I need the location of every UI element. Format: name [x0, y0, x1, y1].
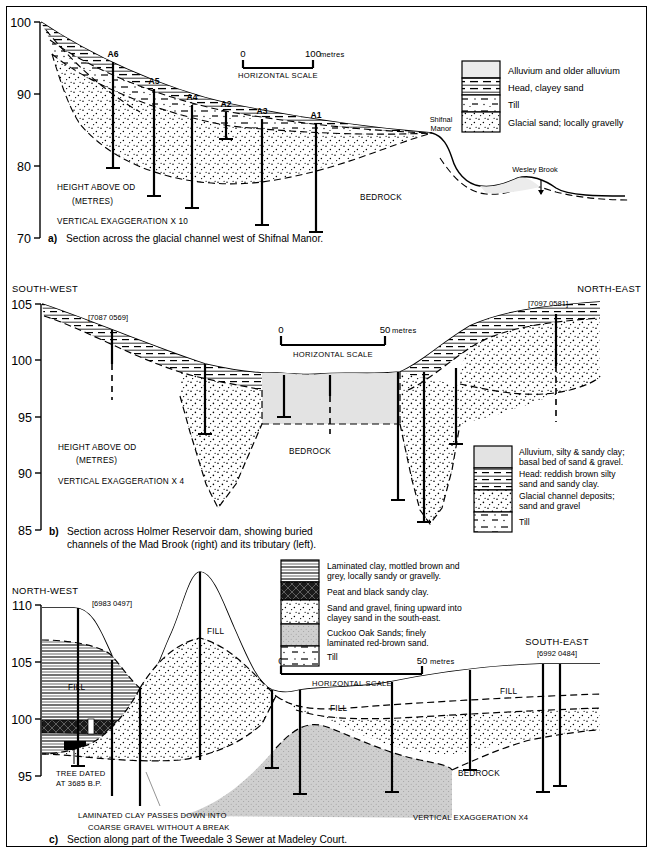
panel-a-shifnal-manor-label-1: Shifnal [430, 115, 453, 124]
panel-a-scale-right: 100 [305, 48, 321, 59]
panel-c-legend-label-laminated-clay-1: Laminated clay, mottled brown and [327, 561, 460, 571]
panel-b-direction-left: SOUTH-WEST [12, 283, 78, 294]
panel-b-scale-bar [281, 336, 385, 345]
panel-b-ytick-85: 85 [18, 524, 32, 538]
panel-a-scale-caption: HORIZONTAL SCALE [238, 71, 318, 80]
panel-c-grid-ref-right: [6992 0484] [537, 649, 577, 658]
panel-c-scale-bar [281, 666, 422, 674]
panel-b: 105 100 95 90 85 [0, 272, 653, 554]
panel-a-legend-label-till: Till [508, 100, 519, 110]
panel-a-shifnal-manor-label-2: Manor [431, 124, 452, 133]
panel-c-peat-gap-1 [88, 719, 94, 734]
panel-a-borehole-label-A5: A5 [149, 76, 160, 86]
panel-b-legend-label-till: Till [519, 517, 530, 527]
panel-c-legend-label-till: Till [327, 652, 338, 662]
panel-b-legend-swatch-head [474, 468, 512, 490]
panel-a-y-axis [34, 22, 40, 238]
panel-c-laminated-note-leader [146, 772, 160, 806]
panel-c-legend-label-cuckoo-oak-2: laminated red-brown sand. [327, 638, 429, 648]
panel-b-scale-caption: HORIZONTAL SCALE [293, 350, 373, 359]
figure-root: 100 90 80 70 [0, 0, 653, 853]
panel-b-legend-label-glacial-channel-2: sand and gravel [519, 501, 580, 511]
panel-c-scale-caption: HORIZONTAL SCALE [312, 679, 392, 688]
panel-a-scale-unit: metres [320, 50, 344, 59]
panel-c-legend-swatch-sand-gravel [281, 600, 319, 624]
panel-b-ytick-105: 105 [11, 298, 32, 312]
panel-c-legend: Laminated clay, mottled brown and grey, … [281, 560, 462, 666]
panel-a-borehole-label-A6: A6 [108, 49, 119, 59]
panel-b-legend-swatch-till [474, 512, 512, 532]
panel-b-grid-ref-right: [7097 0581] [528, 299, 568, 308]
panel-b-ytick-100: 100 [11, 354, 32, 368]
panel-c-legend-label-sand-gravel-2: clayey sand in the south-east. [327, 613, 441, 623]
panel-a-ytick-100: 100 [10, 16, 31, 30]
panel-a-ytick-90: 90 [17, 88, 31, 102]
panel-c-ytick-105: 105 [11, 656, 32, 670]
panel-a-scale-left: 0 [240, 48, 245, 59]
panel-c-legend-label-laminated-clay-2: grey, locally sandy or gravelly. [327, 571, 441, 581]
panel-c-y-axis [35, 605, 41, 776]
panel-c-ytick-110: 110 [12, 599, 32, 613]
panel-b-scale-unit: metres [392, 326, 416, 335]
panel-a-caption-letter: a) [48, 233, 57, 244]
panel-c-legend-label-cuckoo-oak-1: Cuckoo Oak Sands; finely [327, 628, 427, 638]
panel-b-scale-left: 0 [278, 324, 283, 335]
panel-c-legend-label-sand-gravel-1: Sand and gravel, fining upward into [327, 603, 462, 613]
panel-a-brook-alluvium [480, 178, 540, 194]
panel-a-vertical-exaggeration: VERTICAL EXAGGERATION X 10 [57, 217, 188, 226]
panel-b-legend-label-alluvium-1: Alluvium, silty & sandy clay; [519, 447, 625, 457]
panel-c-legend-swatch-peat [281, 582, 319, 600]
panel-c-tree-dated-1: TREE DATED [56, 769, 106, 778]
panel-a: 100 90 80 70 [0, 0, 653, 262]
panel-a-legend-label-glacial-sand: Glacial sand; locally gravelly [508, 118, 624, 128]
panel-a-borehole-label-A2: A2 [221, 99, 232, 109]
panel-b-ytick-95: 95 [18, 411, 32, 425]
panel-c-vertical-exaggeration: VERTICAL EXAGGERATION X4 [413, 813, 528, 822]
panel-a-legend-swatch-till [462, 95, 500, 112]
panel-c-ytick-95: 95 [18, 770, 32, 784]
panel-b-legend-label-head-1: Head: reddish brown silty [519, 469, 616, 479]
panel-c-legend-label-peat: Peat and black sandy clay. [327, 587, 429, 597]
panel-b-grid-ref-left: [7087 0569] [88, 313, 128, 322]
panel-a-borehole-label-A1: A1 [311, 110, 322, 120]
panel-c-legend-swatch-till [281, 646, 319, 666]
panel-a-legend-swatch-glacial-sand [462, 112, 500, 132]
panel-a-scale-bar [243, 60, 313, 68]
panel-b-vertical-exaggeration: VERTICAL EXAGGERATION X 4 [58, 477, 185, 486]
panel-a-caption-text: Section across the glacial channel west … [66, 233, 323, 244]
panel-a-wesley-brook-label: Wesley Brook [512, 165, 558, 174]
panel-c-fill-label-1: FILL [68, 683, 85, 692]
panel-b-unit-glacial-channel-right [400, 372, 460, 524]
panel-a-legend-label-head: Head, clayey sand [508, 83, 584, 93]
panel-c-tree-dated-2: AT 3685 B.P. [56, 779, 102, 788]
panel-b-axis-label-2: (METRES) [76, 456, 117, 465]
panel-b-ytick-90: 90 [18, 467, 32, 481]
panel-a-brook-arrowhead [538, 190, 544, 195]
panel-a-axis-label-2: (METRES) [72, 197, 113, 206]
panel-b-y-axis [35, 304, 41, 530]
panel-b-direction-right: NORTH-EAST [577, 283, 641, 294]
panel-b-caption-letter: b) [49, 526, 59, 537]
panel-a-borehole-label-A4: A4 [187, 92, 198, 102]
panel-b-legend-label-head-2: sand and sandy clay. [519, 479, 599, 489]
panel-c-bedrock-label: BEDROCK [458, 769, 500, 778]
panel-c: 110 105 100 95 [0, 548, 653, 848]
panel-c-scale-unit: metres [430, 657, 454, 666]
panel-a-legend-label-alluvium: Alluvium and older alluvium [508, 66, 620, 76]
panel-c-caption-letter: c) [49, 834, 58, 845]
panel-b-legend-label-glacial-channel-1: Glacial channel deposits; [519, 491, 615, 501]
panel-b-legend-swatch-alluvium [474, 446, 512, 468]
panel-c-fill-label-4: FILL [500, 687, 517, 696]
panel-c-caption-text: Section along part of the Tweedale 3 Sew… [67, 834, 347, 845]
panel-c-legend-swatch-laminated-clay [281, 560, 319, 582]
panel-a-ytick-80: 80 [17, 160, 31, 174]
panel-a-ytick-70: 70 [17, 232, 31, 246]
panel-a-borehole-label-A3: A3 [257, 106, 268, 116]
panel-c-laminated-note-1: LAMINATED CLAY PASSES DOWN INTO [78, 811, 227, 820]
panel-b-legend-label-alluvium-2: basal bed of sand & gravel. [519, 457, 623, 467]
panel-c-legend-swatch-cuckoo-oak-sands [281, 624, 319, 646]
panel-c-fill-label-3: FILL [330, 704, 347, 713]
panel-c-direction-right: SOUTH-EAST [525, 636, 588, 647]
panel-b-axis-label-1: HEIGHT ABOVE OD [58, 443, 136, 452]
panel-a-legend: Alluvium and older alluvium Head, clayey… [462, 61, 624, 132]
